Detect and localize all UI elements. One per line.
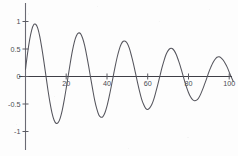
x-tick-label-40: 40 <box>103 79 111 88</box>
y-tick-label-1: 1 <box>17 17 21 26</box>
y-tick-label-0p5: 0.5 <box>11 45 21 54</box>
chart-screenshot: 1 0.5 0 -0.5 -1 20 40 60 80 100 <box>0 0 238 156</box>
damped-sine-curve <box>26 24 234 124</box>
damped-sine-plot: 1 0.5 0 -0.5 -1 20 40 60 80 100 <box>0 0 238 156</box>
x-tick-label-60: 60 <box>144 79 152 88</box>
x-tick-label-100: 100 <box>223 79 235 88</box>
y-tick-label-neg0p5: -0.5 <box>8 100 20 109</box>
y-tick-label-neg1: -1 <box>14 127 20 136</box>
y-tick-label-0: 0 <box>17 72 21 81</box>
